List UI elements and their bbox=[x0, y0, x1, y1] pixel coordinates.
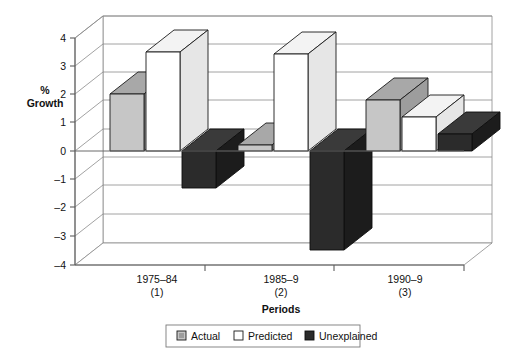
gray-swatch-inner-icon bbox=[179, 333, 184, 338]
bar-predicted-1975-84[interactable] bbox=[146, 30, 208, 151]
white-swatch-icon bbox=[234, 331, 243, 340]
chart-legend: Actual Predicted Unexplained bbox=[166, 325, 378, 347]
x-tick-label-note: (2) bbox=[275, 286, 288, 298]
black-swatch-icon bbox=[305, 331, 314, 340]
y-axis-title-line2: Growth bbox=[27, 97, 64, 109]
legend-item-actual[interactable]: Actual bbox=[177, 330, 220, 342]
growth-bar-chart: 4 3 2 1 0 –1 –2 –3 –4 % Growth bbox=[0, 0, 518, 355]
y-tick-label: 1 bbox=[60, 116, 66, 128]
bar-predicted-1985-9[interactable] bbox=[274, 32, 336, 151]
y-tick-label: 0 bbox=[60, 145, 66, 157]
x-tick-label: 1975–84 bbox=[137, 273, 178, 285]
x-axis-title: Periods bbox=[262, 303, 301, 315]
bar-unexplained-1985-9[interactable] bbox=[310, 129, 372, 250]
y-tick-label: –1 bbox=[54, 173, 66, 185]
y-tick-label: 3 bbox=[60, 60, 66, 72]
legend-item-predicted[interactable]: Predicted bbox=[234, 330, 293, 342]
x-tick-label-note: (1) bbox=[151, 286, 164, 298]
legend-label-unexplained: Unexplained bbox=[319, 330, 378, 342]
x-tick-label: 1990–9 bbox=[387, 273, 422, 285]
y-tick-label: –4 bbox=[54, 259, 66, 271]
y-axis-title-line1: % bbox=[40, 84, 50, 96]
chart-container: 4 3 2 1 0 –1 –2 –3 –4 % Growth bbox=[0, 0, 518, 355]
y-tick-label: –3 bbox=[54, 230, 66, 242]
legend-label-actual: Actual bbox=[191, 330, 220, 342]
y-tick-label: –2 bbox=[54, 201, 66, 213]
y-tick-label: 4 bbox=[60, 32, 66, 44]
x-tick-label-note: (3) bbox=[399, 286, 412, 298]
legend-label-predicted: Predicted bbox=[248, 330, 293, 342]
x-tick-label: 1985–9 bbox=[263, 273, 298, 285]
